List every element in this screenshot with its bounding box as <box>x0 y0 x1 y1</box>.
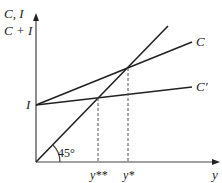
x-axis-label: y <box>210 167 218 182</box>
x-axis-arrow-icon <box>212 159 220 165</box>
y-axis-label-top: C, I <box>4 6 24 21</box>
y-axis-label-bottom: C + I <box>4 23 33 38</box>
y-axis-arrow-icon <box>33 13 39 21</box>
y-star-label: y* <box>122 168 134 182</box>
angle-label: 45° <box>58 146 75 160</box>
forty-five-degree-line <box>36 26 168 162</box>
c-line-label: C <box>196 34 205 49</box>
y-double-star-label: y** <box>89 168 107 182</box>
intercept-label: I <box>25 97 31 112</box>
keynesian-cross-diagram: C, I C + I I C C′ 45° y** y* y <box>0 0 222 183</box>
c-prime-line-label: C′ <box>196 79 208 94</box>
